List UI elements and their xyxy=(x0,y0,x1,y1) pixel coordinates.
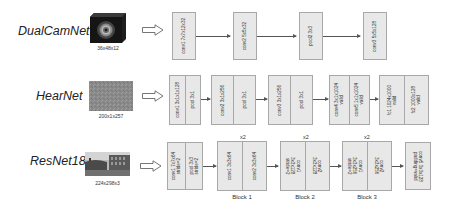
layer-text: pool 3x1 xyxy=(299,91,304,108)
connector-arrow xyxy=(196,36,230,37)
dualcamnet-layer-pool2: pool2 3x3 xyxy=(299,12,323,60)
hearnet-input-image xyxy=(89,81,133,111)
hearnet-layer-conv4-conv5: conv4 3x1x1024 valid conv5 1x1x1024 vali… xyxy=(329,75,370,125)
hearnet-layer-conv1-pool: conv1 3x1x1x128 pool 3x1 xyxy=(169,75,201,125)
hearnet-layer-conv2-pool: conv2 3x1x256 pool 3x1 xyxy=(211,75,256,125)
flow-arrow-icon xyxy=(142,24,164,36)
connector-arrow xyxy=(256,99,267,100)
layer-text: pool 3x1 xyxy=(190,91,195,108)
connector-arrow xyxy=(313,99,328,100)
hearnet-layer-fc1-fc2: fc1 1024x1000 valid fc2 1000x128 valid xyxy=(379,75,429,125)
resnet18-input-image xyxy=(85,152,130,176)
layer-text: pool 3x1 xyxy=(242,91,247,108)
connector-arrow xyxy=(267,166,278,167)
block3-label: Block 3 xyxy=(342,194,392,200)
layer-text: pool 3x3 stride=2 xyxy=(189,157,199,174)
layer-text: conv1 7x7x64 stride=2 xyxy=(171,152,181,180)
dualcamnet-label: DualCamNet xyxy=(18,24,90,38)
resnet18-label: ResNet18 xyxy=(30,154,86,168)
layer-text: conv1 7x7x12x32 xyxy=(181,18,186,54)
block1-label: Block 1 xyxy=(217,194,267,200)
dualcamnet-layer-conv3: conv3 5x5x128 xyxy=(363,12,387,60)
hearnet-input-dim: 200x1x257 xyxy=(89,113,133,119)
layer-text: pool2 3x3 xyxy=(308,26,313,46)
layer-text: conv2 3x3x128 xyxy=(312,157,322,174)
block2-repeat-label: x2 xyxy=(303,134,309,140)
dualcamnet-layer-conv1: conv1 7x7x12x32 xyxy=(172,12,196,60)
dualcamnet-input-image xyxy=(90,13,126,43)
layer-text: conv5 1x1x1024 valid xyxy=(354,83,364,116)
block2-label: Block 2 xyxy=(280,194,330,200)
layer-text: conv1 3x3x128 stride=2 xyxy=(285,157,301,174)
block3-repeat-label: x2 xyxy=(364,134,370,140)
connector-arrow xyxy=(392,166,403,167)
resnet18-input-dim: 224x298x3 xyxy=(85,180,130,186)
flow-arrow-icon xyxy=(142,90,164,102)
layer-text: fc2 1000x128 valid xyxy=(411,86,421,114)
layer-text: conv2 5x5x32 xyxy=(242,22,247,50)
layer-text: conv1 3x3x256 stride=2 xyxy=(347,157,363,174)
layer-text: fc1 1024x1000 valid xyxy=(387,85,397,115)
hearnet-layer-conv3-pool: conv3 3x1x256 pool 3x1 xyxy=(268,75,313,125)
resnet18-layer-conv1-pool: conv1 7x7x64 stride=2 pool 3x3 stride=2 xyxy=(167,142,203,190)
layer-text: conv5 3x3x128 padding=valid xyxy=(413,151,423,182)
layer-text: conv2 3x3x256 xyxy=(374,157,384,174)
flow-arrow-icon xyxy=(140,160,162,172)
layer-text: conv4 3x1x1024 valid xyxy=(334,83,344,116)
dualcamnet-layer-conv2: conv2 5x5x32 xyxy=(233,12,257,60)
connector-arrow xyxy=(370,99,378,100)
layer-text: conv3 5x5x128 xyxy=(372,21,377,52)
resnet18-layer-conv5: conv5 3x3x128 padding=valid xyxy=(405,142,431,190)
connector-arrow xyxy=(201,99,210,100)
dualcamnet-input-dim: 36x48x12 xyxy=(88,45,128,51)
resnet18-block3: conv1 3x3x256 stride=2 conv2 3x3x256 xyxy=(342,141,392,191)
resnet18-block2: conv1 3x3x128 stride=2 conv2 3x3x128 xyxy=(280,141,330,191)
hearnet-label: HearNet xyxy=(36,89,83,103)
connector-arrow xyxy=(330,166,341,167)
layer-text: conv1 3x3x64 xyxy=(227,152,232,180)
layer-text: conv2 3x3x64 xyxy=(252,152,257,180)
block1-repeat-label: x2 xyxy=(240,134,246,140)
resnet18-block1: conv1 3x3x64 conv2 3x3x64 xyxy=(217,141,267,191)
connector-arrow xyxy=(203,166,216,167)
connector-arrow xyxy=(257,36,296,37)
connector-arrow xyxy=(323,36,360,37)
layer-text: conv1 3x1x1x128 xyxy=(175,82,180,118)
layer-text: conv3 3x1x256 xyxy=(277,85,282,116)
layer-text: conv2 3x1x256 xyxy=(220,85,225,116)
